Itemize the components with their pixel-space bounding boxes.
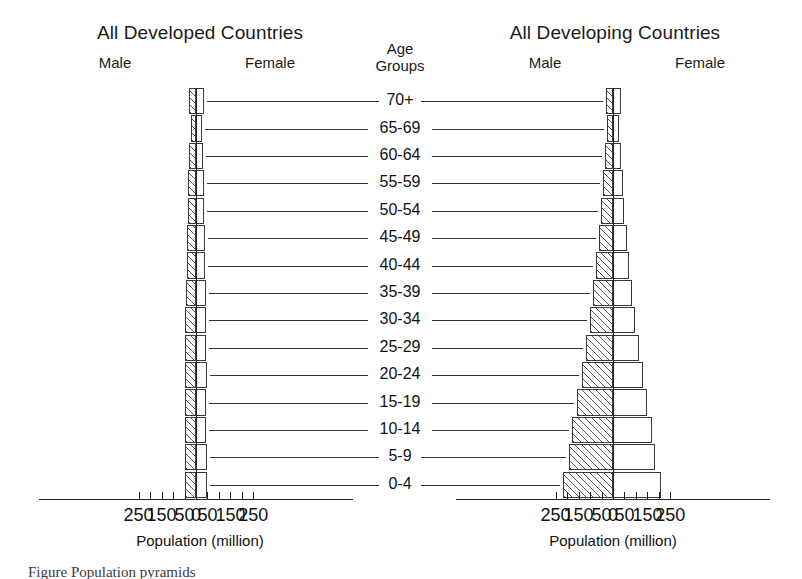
figure-caption: Figure Population pyramids [28, 564, 458, 579]
leader-line-right [432, 320, 587, 321]
age-group-label: 5-9 [354, 447, 446, 465]
age-group-label: 30-34 [354, 310, 446, 328]
x-axis-tick [173, 492, 174, 499]
x-axis-tick [613, 492, 614, 499]
x-axis-tick-label: 250 [223, 505, 283, 526]
bar-male [605, 143, 613, 169]
x-axis-tick [162, 492, 163, 499]
leader-line-left [208, 238, 368, 239]
leader-line-left [207, 101, 379, 102]
bar-female [613, 252, 629, 278]
axis-title-developing: Population (million) [508, 532, 718, 549]
bar-female [613, 307, 635, 333]
age-group-label: 25-29 [354, 338, 446, 356]
leader-line-left [209, 430, 368, 431]
age-group-label: 65-69 [354, 119, 446, 137]
zero-axis-line [613, 88, 614, 499]
bar-male [599, 225, 613, 251]
leader-line-left [209, 348, 368, 349]
bar-male [563, 472, 613, 498]
age-group-label: 40-44 [354, 256, 446, 274]
leader-line-left [210, 485, 379, 486]
bar-female [613, 417, 652, 443]
leader-line-left [207, 211, 368, 212]
leader-line-right [432, 293, 590, 294]
bar-female [613, 280, 632, 306]
age-group-label: 10-14 [354, 420, 446, 438]
x-axis-tick [670, 492, 671, 499]
leader-line-left [206, 156, 368, 157]
leader-line-left [207, 183, 368, 184]
x-axis-tick [230, 492, 231, 499]
age-group-label: 0-4 [354, 475, 446, 493]
bar-female [613, 143, 621, 169]
leader-line-right [432, 156, 602, 157]
age-group-label: 50-54 [354, 201, 446, 219]
age-group-label: 15-19 [354, 393, 446, 411]
x-axis-line [39, 499, 353, 500]
bar-female [613, 472, 661, 498]
age-group-label: 70+ [354, 91, 446, 109]
x-axis-tick [185, 492, 186, 499]
bar-male [582, 362, 613, 388]
bar-female [613, 225, 627, 251]
x-axis-tick [590, 492, 591, 499]
leader-line-right [432, 348, 583, 349]
leader-line-left [205, 129, 368, 130]
leader-line-right [432, 375, 579, 376]
bar-male [569, 444, 613, 470]
x-axis-tick [139, 492, 140, 499]
bar-male [586, 335, 613, 361]
leader-line-right [421, 101, 603, 102]
leader-line-right [432, 211, 598, 212]
age-group-label: 60-64 [354, 146, 446, 164]
bar-male [577, 389, 613, 415]
bar-female [613, 444, 655, 470]
x-axis-tick [207, 492, 208, 499]
bar-male [572, 417, 613, 443]
age-group-label: 35-39 [354, 283, 446, 301]
bar-female [613, 88, 621, 114]
leader-line-left [208, 266, 368, 267]
bar-female [613, 335, 639, 361]
bar-male [590, 307, 613, 333]
x-axis-tick [647, 492, 648, 499]
leader-line-right [432, 183, 600, 184]
bar-female [613, 389, 647, 415]
leader-line-right [432, 129, 604, 130]
leader-line-right [432, 430, 569, 431]
bar-female [613, 198, 624, 224]
leader-line-left [210, 457, 379, 458]
x-axis-tick [556, 492, 557, 499]
population-pyramid-figure: All Developed Countries Male Female Age … [0, 0, 802, 579]
age-group-label: 20-24 [354, 365, 446, 383]
leader-line-left [209, 403, 368, 404]
x-axis-tick [567, 492, 568, 499]
bar-male [596, 252, 613, 278]
leader-line-right [432, 266, 593, 267]
bar-male [603, 170, 613, 196]
x-axis-tick [636, 492, 637, 499]
x-axis-tick [242, 492, 243, 499]
bar-male [593, 280, 613, 306]
age-group-label: 55-59 [354, 173, 446, 191]
leader-line-right [421, 457, 566, 458]
bar-male [601, 198, 613, 224]
x-axis-tick [624, 492, 625, 499]
x-axis-tick [579, 492, 580, 499]
bar-male [606, 88, 613, 114]
x-axis-tick-label: 250 [640, 505, 700, 526]
bar-female [613, 362, 643, 388]
axis-title-developed: Population (million) [95, 532, 305, 549]
leader-line-right [432, 238, 596, 239]
x-axis-tick [219, 492, 220, 499]
x-axis-tick [659, 492, 660, 499]
x-axis-tick [602, 492, 603, 499]
leader-line-left [209, 320, 368, 321]
x-axis-tick [196, 492, 197, 499]
leader-line-right [421, 485, 560, 486]
x-axis-line [456, 499, 770, 500]
bar-female [613, 170, 623, 196]
leader-line-left [209, 293, 368, 294]
age-group-label: 45-49 [354, 228, 446, 246]
